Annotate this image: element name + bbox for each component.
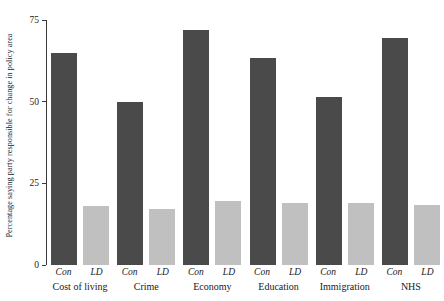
bar-con-economy[interactable] (183, 30, 209, 265)
x-axis-group-label: NHS (378, 280, 444, 294)
y-axis-tick-label: 75 (30, 15, 43, 25)
bar-ld-cost-of-living[interactable] (83, 206, 109, 265)
x-axis-group: ConLDCrime (113, 265, 179, 294)
bar-ld-crime[interactable] (149, 209, 175, 265)
series-label-con: Con (179, 265, 212, 280)
y-axis-ticks: 0255075 (20, 0, 46, 301)
bar-ld-education[interactable] (282, 203, 308, 265)
y-axis-tick-0: 0 (34, 260, 46, 270)
bar-con-cost-of-living[interactable] (51, 53, 77, 265)
bar-ld-economy[interactable] (215, 201, 241, 265)
series-label-row: ConLD (179, 265, 245, 280)
series-label-row: ConLD (312, 265, 378, 280)
series-label-ld: LD (279, 265, 312, 280)
y-axis-tick-label: 0 (34, 260, 42, 270)
bar-group (378, 0, 444, 265)
x-axis-group: ConLDNHS (378, 265, 444, 294)
x-axis-group: ConLDCost of living (47, 265, 113, 294)
y-axis-tick-75: 75 (30, 15, 47, 25)
bar-con-nhs[interactable] (382, 38, 408, 265)
series-label-con: Con (246, 265, 279, 280)
plot-area (47, 0, 444, 265)
bar-con-education[interactable] (250, 58, 276, 265)
y-axis-tick-50: 50 (30, 97, 47, 107)
bar-ld-immigration[interactable] (348, 203, 374, 265)
series-label-row: ConLD (246, 265, 312, 280)
y-axis-title: Percentage saying party responsible for … (0, 0, 18, 270)
x-axis-group-label: Immigration (312, 280, 378, 294)
bar-chart: Percentage saying party responsible for … (0, 0, 444, 301)
x-axis-group-label: Crime (113, 280, 179, 294)
series-label-ld: LD (80, 265, 113, 280)
series-label-con: Con (312, 265, 345, 280)
series-label-row: ConLD (378, 265, 444, 280)
bar-group (246, 0, 312, 265)
series-label-ld: LD (411, 265, 444, 280)
x-axis-labels: ConLDCost of livingConLDCrimeConLDEconom… (47, 265, 444, 301)
bar-group (179, 0, 245, 265)
series-label-con: Con (113, 265, 146, 280)
series-label-ld: LD (146, 265, 179, 280)
bar-con-crime[interactable] (117, 102, 143, 265)
series-label-row: ConLD (113, 265, 179, 280)
x-axis-group: ConLDEducation (246, 265, 312, 294)
x-axis-group: ConLDEconomy (179, 265, 245, 294)
bar-group (312, 0, 378, 265)
bar-con-immigration[interactable] (316, 97, 342, 265)
bar-ld-nhs[interactable] (414, 205, 440, 265)
series-label-ld: LD (212, 265, 245, 280)
y-axis-tick-label: 50 (30, 97, 43, 107)
x-axis-group: ConLDImmigration (312, 265, 378, 294)
series-label-row: ConLD (47, 265, 113, 280)
bar-group (47, 0, 113, 265)
y-axis-tick-25: 25 (30, 178, 47, 188)
series-label-con: Con (378, 265, 411, 280)
bar-group (113, 0, 179, 265)
x-axis-group-label: Economy (179, 280, 245, 294)
series-label-ld: LD (345, 265, 378, 280)
series-label-con: Con (47, 265, 80, 280)
x-axis-group-label: Education (246, 280, 312, 294)
y-axis-tick-label: 25 (30, 178, 43, 188)
x-axis-group-label: Cost of living (47, 280, 113, 294)
y-axis-title-text: Percentage saying party responsible for … (5, 33, 14, 237)
